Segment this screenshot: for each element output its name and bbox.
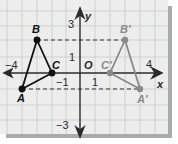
label-a: A <box>16 92 25 104</box>
x-axis-label: x <box>156 78 164 90</box>
coordinate-plane-figure: B C A B′ C′ A′ y x O −4 −1 1 4 3 1 −3 <box>0 0 178 144</box>
x-tick-4: 4 <box>146 58 152 70</box>
label-b: B <box>32 23 40 35</box>
point-b-prime <box>122 37 128 43</box>
label-c-prime: C′ <box>101 59 113 71</box>
x-tick-neg1: −1 <box>56 76 69 88</box>
x-tick-1: 1 <box>92 76 98 88</box>
label-c: C <box>52 59 61 71</box>
label-b-prime: B′ <box>120 23 132 35</box>
x-tick-neg4: −4 <box>5 59 18 71</box>
y-axis-label: y <box>84 10 92 22</box>
y-tick-neg3: −3 <box>56 119 69 131</box>
origin-label: O <box>84 59 93 71</box>
label-a-prime: A′ <box>136 93 149 105</box>
y-tick-1: 1 <box>69 51 75 63</box>
coordinate-plane: B C A B′ C′ A′ y x O −4 −1 1 4 3 1 −3 <box>0 0 178 144</box>
y-tick-3: 3 <box>68 18 74 30</box>
point-a-prime <box>137 86 143 92</box>
point-b <box>34 37 41 44</box>
